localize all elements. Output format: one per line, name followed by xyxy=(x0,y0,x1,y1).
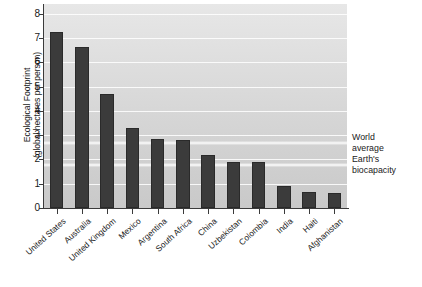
bar xyxy=(277,186,291,208)
gridline xyxy=(44,111,347,112)
y-tick-mark xyxy=(39,14,44,15)
y-tick-mark xyxy=(39,159,44,160)
y-tick-mark xyxy=(39,135,44,136)
reference-label-earths-biocapacity: Earth's biocapacity xyxy=(352,154,396,175)
x-tick-mark xyxy=(132,209,133,214)
x-tick-mark xyxy=(107,209,108,214)
y-tick-mark xyxy=(39,111,44,112)
y-tick-label: 5 xyxy=(24,82,40,92)
gridline xyxy=(44,87,347,88)
x-tick-mark xyxy=(82,209,83,214)
x-tick-mark xyxy=(208,209,209,214)
ecological-footprint-chart: Ecological Footprint (global hectares pe… xyxy=(0,0,422,287)
x-tick-mark xyxy=(334,209,335,214)
y-axis-tick-labels: 012345678 xyxy=(24,0,40,215)
reference-line-earths-biocapacity xyxy=(44,164,347,166)
gridline xyxy=(44,38,347,39)
reference-line-world-average xyxy=(44,142,347,144)
y-tick-label: 6 xyxy=(24,57,40,67)
plot-area xyxy=(44,4,347,208)
y-tick-label: 3 xyxy=(24,130,40,140)
y-tick-mark xyxy=(39,208,44,209)
x-tick-mark xyxy=(233,209,234,214)
gridline xyxy=(44,184,347,185)
bar xyxy=(50,32,64,208)
y-tick-label: 2 xyxy=(24,154,40,164)
gridline xyxy=(44,159,347,160)
y-tick-label: 7 xyxy=(24,33,40,43)
reference-label-world-average: World average xyxy=(352,132,384,153)
bar xyxy=(75,47,89,209)
y-tick-label: 8 xyxy=(24,9,40,19)
y-tick-mark xyxy=(39,38,44,39)
bar xyxy=(328,193,342,208)
y-tick-mark xyxy=(39,62,44,63)
y-tick-label: 0 xyxy=(24,203,40,213)
bar xyxy=(126,128,140,208)
y-tick-mark xyxy=(39,87,44,88)
bar xyxy=(252,162,266,208)
bar xyxy=(151,139,165,208)
x-axis-line xyxy=(43,208,349,209)
bar xyxy=(100,94,114,208)
x-tick-mark xyxy=(183,209,184,214)
x-tick-mark xyxy=(284,209,285,214)
bar xyxy=(302,192,316,208)
gridline xyxy=(44,135,347,136)
bar xyxy=(201,155,215,208)
bar xyxy=(176,140,190,208)
y-tick-label: 1 xyxy=(24,179,40,189)
gridline xyxy=(44,62,347,63)
x-tick-mark xyxy=(259,209,260,214)
gridline xyxy=(44,14,347,15)
x-tick-mark xyxy=(57,209,58,214)
y-tick-mark xyxy=(39,184,44,185)
x-tick-mark xyxy=(309,209,310,214)
bar xyxy=(227,162,241,208)
x-tick-mark xyxy=(158,209,159,214)
y-tick-label: 4 xyxy=(24,106,40,116)
